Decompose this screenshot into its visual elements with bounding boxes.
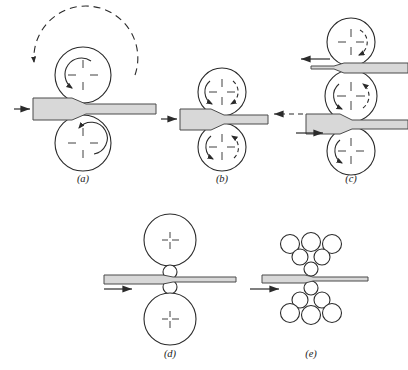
- panel-c-label: (c): [345, 173, 357, 185]
- panel-e-bottom-backup-roll-left: [281, 304, 300, 323]
- rolling-mill-diagram: (a) (b): [0, 0, 408, 370]
- panel-c-top-roll: [327, 18, 375, 66]
- panel-e-bottom-backup-roll-center: [302, 306, 321, 325]
- panel-a-label: (a): [77, 173, 90, 185]
- panel-e-top-backup-roll-center: [302, 233, 321, 252]
- panel-e-top-intermediate-roll-right: [314, 249, 330, 265]
- figure-root: (a) (b): [0, 0, 408, 370]
- panel-d-label: (d): [164, 348, 177, 360]
- panel-d-top-backup-roll: [144, 214, 196, 266]
- panel-e-top-work-roll: [304, 262, 318, 276]
- panel-d-bottom-backup-roll: [144, 293, 196, 345]
- panel-e-label: (e): [305, 348, 317, 360]
- panel-e-bottom-backup-roll-right: [323, 304, 342, 323]
- panel-a-bottom-roll: [55, 115, 111, 171]
- panel-b-label: (b): [216, 173, 229, 185]
- panel-a-top-roll: [55, 47, 111, 103]
- panel-e-top-intermediate-roll-left: [292, 249, 308, 265]
